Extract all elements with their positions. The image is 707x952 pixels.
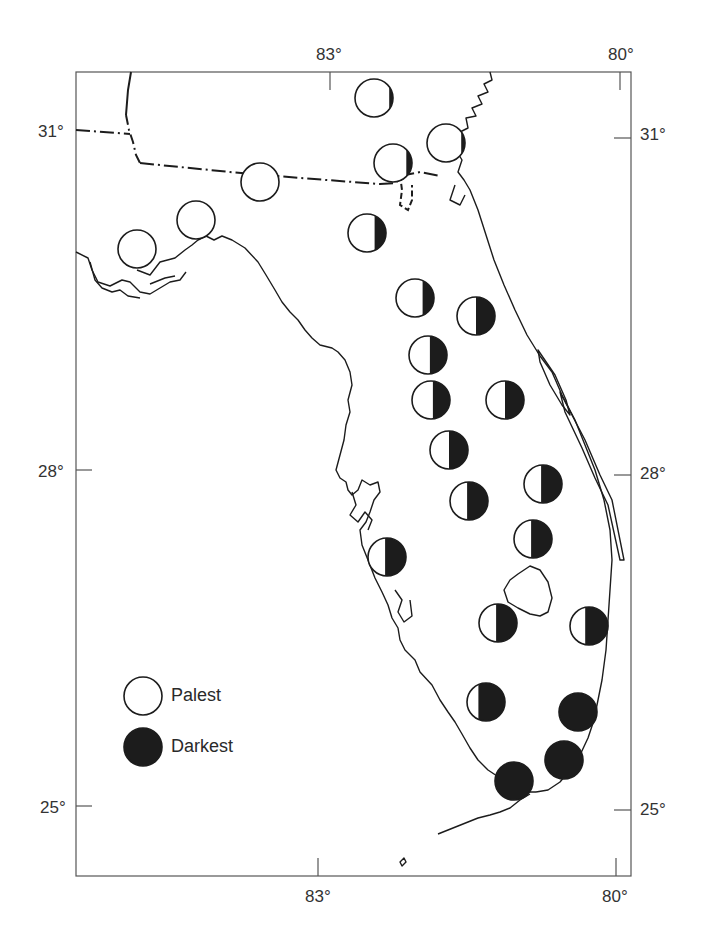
station-marker [570,607,608,645]
axis-label-left-31: 31° [38,122,64,142]
station-marker [409,336,447,374]
station-marker [486,381,524,419]
station-marker [524,465,562,503]
legend-palest-icon [124,677,162,715]
station-marker [495,762,533,800]
legend-palest-label: Palest [171,685,221,706]
station-marker [355,79,393,117]
station-marker [348,214,386,252]
station-marker [559,693,597,731]
station-marker [514,520,552,558]
florida-map [0,0,707,952]
axis-label-left-28: 28° [38,462,64,482]
axis-label-bottom-80: 80° [602,887,628,907]
axis-label-right-25: 25° [640,800,666,820]
station-marker [177,201,215,239]
station-marker [374,144,412,182]
station-marker [479,604,517,642]
axis-label-right-31: 31° [640,125,666,145]
station-marker [467,683,505,721]
station-marker [427,124,465,162]
station-marker [430,431,468,469]
axis-label-top-80: 80° [608,45,634,65]
station-marker [412,381,450,419]
axis-label-right-28: 28° [640,464,666,484]
axis-label-left-25: 25° [40,798,66,818]
legend-darkest-icon [124,728,162,766]
station-marker [457,297,495,335]
axis-label-bottom-83: 83° [305,887,331,907]
station-marker [545,741,583,779]
legend [124,677,162,766]
station-marker [450,482,488,520]
station-marker [118,230,156,268]
axis-label-top-83: 83° [316,45,342,65]
station-marker [396,279,434,317]
legend-darkest-label: Darkest [171,736,233,757]
station-marker [368,538,406,576]
station-marker [241,163,279,201]
